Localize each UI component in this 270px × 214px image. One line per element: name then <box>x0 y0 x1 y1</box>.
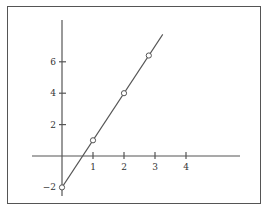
data-point-marker <box>146 53 151 58</box>
x-tick-label: 2 <box>121 162 127 172</box>
data-point-marker <box>90 138 95 143</box>
y-tick-label: 6 <box>50 57 56 67</box>
axes <box>32 20 240 196</box>
line-chart: 1234−2246 <box>0 0 270 214</box>
y-tick-label: 4 <box>50 88 56 98</box>
data-point-marker <box>121 91 126 96</box>
x-tick-label: 4 <box>183 162 189 172</box>
x-tick-label: 3 <box>152 162 158 172</box>
y-tick-label: 2 <box>50 120 56 130</box>
series-line <box>59 34 162 190</box>
x-tick-label: 1 <box>90 162 96 172</box>
y-tick-label: −2 <box>43 182 56 192</box>
ticks: 1234−2246 <box>43 57 189 193</box>
data-point-marker <box>59 185 64 190</box>
